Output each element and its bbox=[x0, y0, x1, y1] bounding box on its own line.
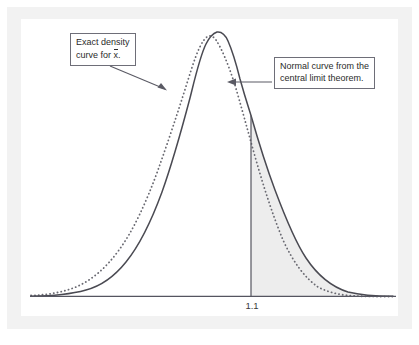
callout-normal-line2: central limit theorem. bbox=[280, 73, 369, 85]
callout-exact-line2-prefix: curve for bbox=[76, 50, 114, 60]
normal-curve-arrow bbox=[227, 79, 272, 86]
callout-exact-density: Exact density curve for x. bbox=[70, 33, 136, 66]
callout-exact-line2: curve for x. bbox=[76, 49, 130, 62]
x-axis-tick-label: 1.1 bbox=[230, 300, 274, 311]
density-curve-figure: Exact density curve for x. Normal curve … bbox=[0, 0, 419, 345]
shaded-tail-region bbox=[251, 116, 393, 297]
callout-normal-line1: Normal curve from the bbox=[280, 61, 369, 73]
callout-exact-line1: Exact density bbox=[76, 37, 130, 49]
plot-svg bbox=[0, 0, 419, 345]
exact-density-arrow bbox=[110, 66, 167, 91]
callout-normal-curve: Normal curve from the central limit theo… bbox=[274, 57, 375, 89]
callout-exact-line2-suffix: . bbox=[118, 50, 121, 60]
